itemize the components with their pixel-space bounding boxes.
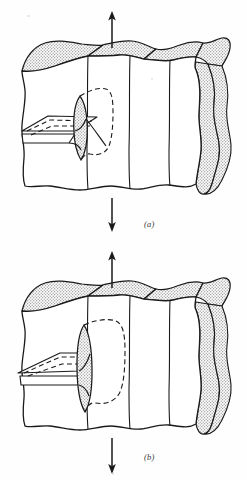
scan-speck xyxy=(27,15,30,17)
panel-caption-a: (a) xyxy=(144,219,155,229)
scan-speck xyxy=(205,110,207,112)
figure-panel-b xyxy=(0,240,247,480)
panel-caption-b: (b) xyxy=(144,452,155,462)
surface-notch-lower-lip xyxy=(22,134,75,143)
surface-notch-lower-lip xyxy=(20,376,79,385)
scan-speck xyxy=(112,472,114,475)
scan-speck xyxy=(151,78,153,80)
bottom-tension-arrow xyxy=(108,198,116,232)
figure-page: (a) xyxy=(0,0,247,480)
figure-panel-a xyxy=(0,0,247,240)
bottom-tension-arrow xyxy=(108,438,116,474)
